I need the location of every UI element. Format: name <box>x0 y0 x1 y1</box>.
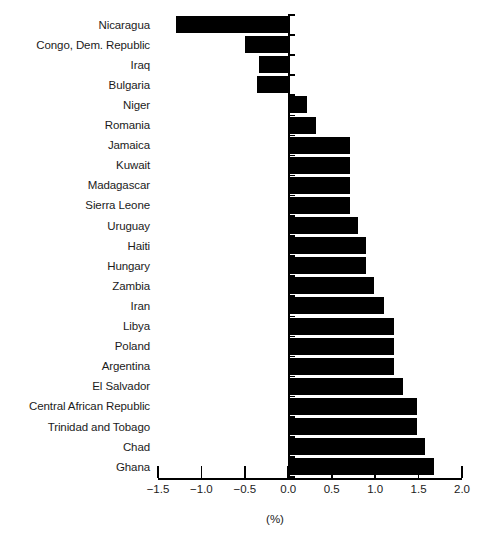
bar <box>288 398 417 415</box>
bar <box>288 438 424 455</box>
x-axis-tick <box>418 466 420 478</box>
x-axis-tick-label: 0.0 <box>265 483 311 496</box>
bar <box>288 137 350 154</box>
x-axis-tick <box>461 466 463 478</box>
x-axis-line <box>158 478 462 480</box>
category-tick <box>288 34 295 36</box>
category-label: Iraq <box>131 59 150 71</box>
x-axis-tick <box>157 466 159 478</box>
bar <box>288 378 403 395</box>
x-axis-tick-label: 0.5 <box>309 483 355 496</box>
bar <box>288 418 417 435</box>
category-label: Congo, Dem. Republic <box>36 39 150 51</box>
bar <box>257 76 288 93</box>
bar <box>288 197 350 214</box>
bar <box>288 177 350 194</box>
category-label: Haiti <box>127 240 150 252</box>
x-axis-tick <box>331 466 333 478</box>
bar <box>288 157 350 174</box>
category-label: Poland <box>115 340 150 352</box>
x-axis-tick <box>244 466 246 478</box>
category-tick <box>288 14 295 16</box>
bar <box>176 16 288 33</box>
bar <box>288 117 316 134</box>
category-label: Madagascar <box>88 179 150 191</box>
category-label: Iran <box>131 300 150 312</box>
category-label: Chad <box>123 441 150 453</box>
bar <box>288 96 306 113</box>
x-axis-tick-label: −1.5 <box>135 483 181 496</box>
category-label: Kuwait <box>116 159 150 171</box>
category-label: Hungary <box>107 260 150 272</box>
category-label: Romania <box>105 119 150 131</box>
bar <box>288 277 374 294</box>
chart-page: NicaraguaCongo, Dem. RepublicIraqBulgari… <box>0 0 484 557</box>
category-label: Zambia <box>112 280 150 292</box>
x-axis-tick <box>374 466 376 478</box>
horizontal-bar-chart: NicaraguaCongo, Dem. RepublicIraqBulgari… <box>0 0 484 500</box>
category-label: Ghana <box>116 461 150 473</box>
x-axis-tick-label: 2.0 <box>439 483 484 496</box>
category-label: Trinidad and Tobago <box>48 421 150 433</box>
category-label: Niger <box>123 99 150 111</box>
bar <box>288 458 434 475</box>
bar <box>288 257 365 274</box>
category-label: Uruguay <box>107 220 150 232</box>
bar <box>288 297 384 314</box>
x-axis-tick-label: −0.5 <box>222 483 268 496</box>
bar <box>288 237 365 254</box>
category-tick <box>288 74 295 76</box>
bar <box>259 56 289 73</box>
x-axis-tick <box>287 466 289 478</box>
bar <box>288 217 357 234</box>
category-label: Central African Republic <box>29 400 150 412</box>
x-axis-title: (%) <box>0 513 484 525</box>
category-label: El Salvador <box>92 380 150 392</box>
x-axis-title-text: (%) <box>266 513 284 525</box>
bar <box>288 358 394 375</box>
x-axis-tick-label: 1.0 <box>352 483 398 496</box>
x-axis-tick-label: −1.0 <box>178 483 224 496</box>
x-axis-tick <box>201 466 203 478</box>
category-tick <box>288 54 295 56</box>
x-axis-tick-label: 1.5 <box>396 483 442 496</box>
category-label: Argentina <box>102 360 150 372</box>
category-label: Sierra Leone <box>85 199 150 211</box>
category-label: Nicaragua <box>98 19 150 31</box>
category-label: Bulgaria <box>109 79 150 91</box>
bar <box>288 338 394 355</box>
category-label: Libya <box>123 320 150 332</box>
bar <box>245 36 288 53</box>
category-label: Jamaica <box>108 139 150 151</box>
bar <box>288 318 394 335</box>
